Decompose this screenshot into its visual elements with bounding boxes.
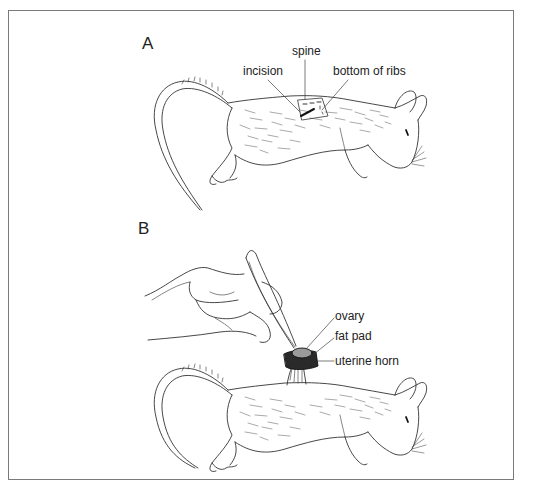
- mouse-a: [154, 77, 426, 210]
- illustration: [0, 0, 540, 485]
- hand-with-forceps: [145, 251, 296, 348]
- leader-lines-a: [268, 60, 348, 112]
- mouse-b: [154, 348, 426, 472]
